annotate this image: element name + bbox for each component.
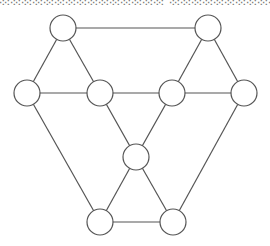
node-top-left	[50, 15, 76, 41]
node-top-right	[195, 15, 221, 41]
node-inner-left	[87, 80, 113, 106]
node-left	[14, 80, 40, 106]
graph-diagram	[0, 0, 270, 246]
node-bottom-right	[160, 209, 186, 235]
node-bottom-left	[87, 209, 113, 235]
edge-right-bottom-right	[173, 93, 244, 222]
node-right	[231, 80, 257, 106]
edge-group	[27, 28, 244, 222]
node-group	[14, 15, 257, 235]
node-center	[123, 144, 149, 170]
node-inner-right	[159, 80, 185, 106]
edge-left-bottom-left	[27, 93, 100, 222]
